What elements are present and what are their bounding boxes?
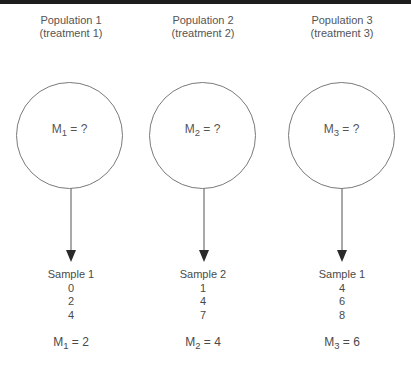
population-mean-label: M1 = ?: [17, 122, 122, 136]
mean-symbol: M: [185, 335, 195, 349]
mean-value: = ?: [200, 122, 220, 136]
population-header: Population 1 (treatment 1): [6, 14, 136, 39]
population-header: Population 3 (treatment 3): [277, 14, 407, 39]
sample-list: Sample 2 1 4 7: [138, 268, 268, 322]
treatment-label: (treatment 2): [138, 27, 268, 40]
mean-symbol: M: [52, 122, 62, 136]
sample-title: Sample 2: [138, 268, 268, 282]
arrow-down-icon: [194, 188, 214, 264]
sample-value: 6: [277, 295, 407, 309]
arrow-down-icon: [332, 188, 352, 264]
population-label: Population 2: [138, 14, 268, 27]
sample-value: 1: [138, 282, 268, 296]
sample-value: 4: [138, 295, 268, 309]
sample-title: Sample 1: [6, 268, 136, 282]
sample-list: Sample 1 0 2 4: [6, 268, 136, 322]
mean-subscript: 3: [334, 340, 339, 351]
mean-subscript: 3: [334, 127, 339, 138]
arrow-down-icon: [61, 188, 81, 264]
population-column-3: Population 3 (treatment 3) M3 = ? Sample…: [277, 0, 407, 369]
population-circle: M1 = ?: [16, 82, 123, 189]
mean-subscript: 1: [63, 340, 68, 351]
sample-value: 7: [138, 309, 268, 323]
mean-subscript: 2: [195, 127, 200, 138]
treatment-label: (treatment 1): [6, 27, 136, 40]
mean-value: = 6: [339, 335, 359, 349]
population-column-2: Population 2 (treatment 2) M2 = ? Sample…: [138, 0, 268, 369]
population-column-1: Population 1 (treatment 1) M1 = ? Sample…: [6, 0, 136, 369]
treatment-label: (treatment 3): [277, 27, 407, 40]
sample-value: 8: [277, 309, 407, 323]
sample-list: Sample 1 4 6 8: [277, 268, 407, 322]
population-mean-label: M2 = ?: [150, 122, 255, 136]
mean-value: = 4: [200, 335, 220, 349]
mean-subscript: 1: [62, 127, 67, 138]
mean-symbol: M: [324, 122, 334, 136]
mean-symbol: M: [324, 335, 334, 349]
population-circle: M2 = ?: [149, 82, 256, 189]
mean-symbol: M: [53, 335, 63, 349]
mean-value: = ?: [339, 122, 359, 136]
population-mean-label: M3 = ?: [289, 122, 394, 136]
sample-value: 0: [6, 282, 136, 296]
population-label: Population 3: [277, 14, 407, 27]
sample-value: 4: [277, 282, 407, 296]
mean-symbol: M: [185, 122, 195, 136]
mean-value: = ?: [67, 122, 87, 136]
sample-mean: M2 = 4: [138, 335, 268, 349]
mean-value: = 2: [68, 335, 88, 349]
sample-value: 2: [6, 295, 136, 309]
sample-mean: M1 = 2: [6, 335, 136, 349]
sample-title: Sample 1: [277, 268, 407, 282]
population-circle: M3 = ?: [288, 82, 395, 189]
population-header: Population 2 (treatment 2): [138, 14, 268, 39]
population-label: Population 1: [6, 14, 136, 27]
sample-mean: M3 = 6: [277, 335, 407, 349]
sample-value: 4: [6, 309, 136, 323]
mean-subscript: 2: [195, 340, 200, 351]
